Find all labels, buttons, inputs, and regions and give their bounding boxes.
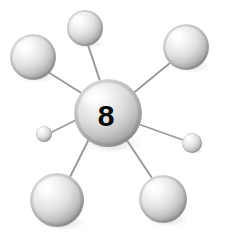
bond-to-small-right bbox=[141, 125, 183, 140]
atom-bottom-left-specular bbox=[35, 180, 57, 197]
atom-top-right bbox=[163, 24, 209, 70]
atom-small-left bbox=[36, 126, 52, 142]
molecule-canvas: 8 bbox=[0, 0, 227, 249]
central-atom-label: 8 bbox=[98, 99, 115, 132]
atom-top-center bbox=[67, 10, 103, 46]
atom-bottom-left bbox=[30, 173, 84, 227]
atom-top-right-specular bbox=[168, 30, 186, 44]
atom-bottom-right-specular bbox=[143, 181, 163, 196]
atom-bottom-right bbox=[139, 175, 187, 223]
atom-top-left-specular bbox=[15, 40, 33, 54]
atom-bottom-right-rim bbox=[139, 175, 187, 223]
atom-top-left-rim bbox=[10, 34, 56, 80]
atom-bottom-left-rim bbox=[30, 173, 84, 227]
atom-top-left bbox=[10, 34, 56, 80]
bond-to-top-center bbox=[88, 45, 100, 81]
central-atom: 8 bbox=[74, 79, 142, 153]
atom-small-right bbox=[182, 133, 202, 153]
atom-small-left-specular bbox=[38, 127, 44, 132]
atom-top-right-rim bbox=[163, 24, 209, 70]
molecular-model-figure: 8 bbox=[0, 0, 227, 249]
atom-small-right-specular bbox=[184, 135, 192, 141]
atom-small-left-rim bbox=[36, 126, 52, 142]
atom-top-center-rim bbox=[67, 10, 103, 46]
bond-to-top-right bbox=[131, 63, 170, 95]
atom-top-center-specular bbox=[71, 15, 85, 26]
bond-to-small-left bbox=[52, 120, 76, 132]
